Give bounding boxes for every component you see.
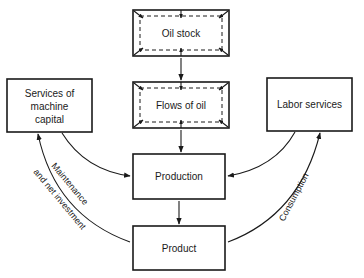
flows-of-oil-label: Flows of oil (156, 100, 206, 111)
product-label: Product (162, 243, 197, 254)
oil-stock-node: Oil stock (133, 10, 229, 56)
arrow-product-to-labor (228, 133, 320, 242)
services-label-line1: Services of (25, 88, 75, 99)
product-node: Product (133, 226, 225, 270)
arrow-labor-to-production (228, 132, 295, 176)
services-label-line2: machine (31, 101, 69, 112)
oil-stock-label: Oil stock (162, 28, 201, 39)
labor-services-node: Labor services (267, 78, 352, 131)
services-machine-capital-node: Services of machine capital (7, 79, 92, 132)
labor-services-label: Labor services (277, 99, 342, 110)
arrow-services-to-production (62, 133, 130, 176)
production-label: Production (155, 171, 203, 182)
production-node: Production (133, 154, 225, 199)
flow-diagram: Oil stock Flows of oil Services of machi… (0, 0, 364, 278)
consumption-label: Consumption (277, 171, 311, 223)
services-label-line3: capital (35, 114, 64, 125)
flows-of-oil-node: Flows of oil (133, 82, 229, 128)
